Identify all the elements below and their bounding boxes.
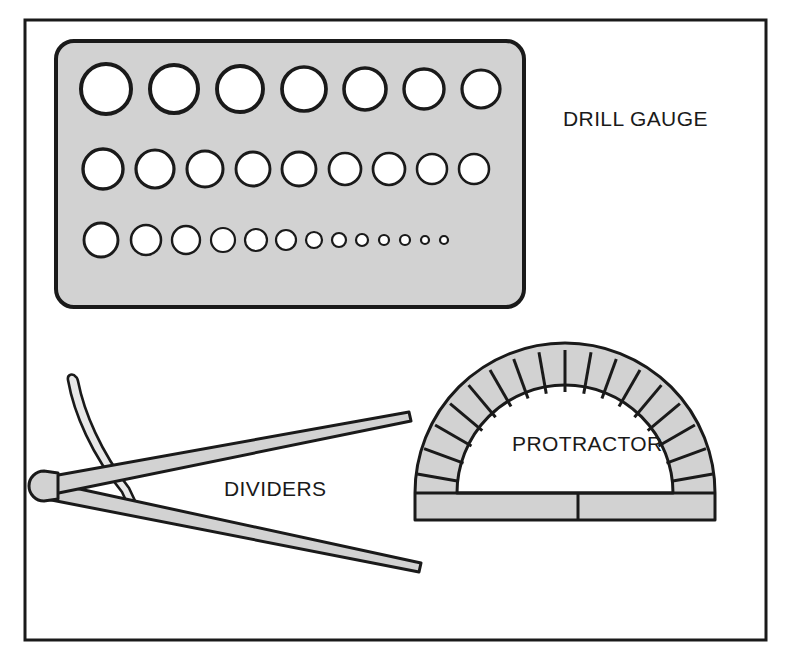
drill-gauge-label: DRILL GAUGE [563,107,708,130]
drill-gauge-hole [187,151,223,187]
dividers-label: DIVIDERS [224,477,326,500]
dividers-pivot-head [29,471,58,501]
drill-gauge-hole [245,229,267,251]
tools-illustration: DRILL GAUGE DIVIDERS [0,0,792,661]
drill-gauge-hole [373,153,405,185]
drill-gauge-hole [217,66,263,112]
drill-gauge-hole [84,223,118,257]
drill-gauge-hole [417,154,447,184]
drill-gauge-hole [136,150,174,188]
drill-gauge-hole [306,232,322,248]
drill-gauge-hole [421,236,429,244]
drill-gauge-hole [400,235,410,245]
drill-gauge-hole [459,154,489,184]
drill-gauge-hole [462,70,500,108]
drill-gauge-hole [344,68,386,110]
drill-gauge-hole [276,230,296,250]
drill-gauge-hole [332,233,346,247]
drill-gauge-hole [282,67,326,111]
drill-gauge-hole [440,236,448,244]
drill-gauge-hole [356,234,368,246]
drill-gauge-hole [172,226,200,254]
drill-gauge-hole [83,149,123,189]
drill-gauge-hole [379,235,389,245]
drill-gauge-hole [236,152,270,186]
drill-gauge-hole [131,225,161,255]
figure-root: DRILL GAUGE DIVIDERS [0,0,792,661]
drill-gauge-hole [404,69,444,109]
drill-gauge-hole [282,152,316,186]
protractor-label: PROTRACTOR [512,432,663,455]
drill-gauge-hole [150,65,198,113]
drill-gauge-hole [329,153,361,185]
drill-gauge-hole [81,64,131,114]
drill-gauge-hole [211,228,235,252]
